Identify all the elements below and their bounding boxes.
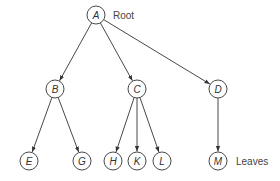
edge-a-c (100, 23, 132, 81)
node-label: C (133, 84, 141, 95)
node-label: M (214, 156, 223, 167)
root-label: Root (113, 10, 134, 21)
node-d: D (209, 80, 227, 98)
node-a: A (87, 6, 105, 24)
node-m: M (209, 152, 227, 170)
edge-b-g (58, 97, 79, 152)
edge-c-h (116, 98, 134, 152)
node-label: A (92, 10, 100, 21)
node-h: H (104, 152, 122, 170)
node-l: L (153, 152, 171, 170)
edge-b-e (32, 97, 52, 152)
edge-a-b (60, 23, 92, 81)
tree-diagram: ABCDEGHKLM RootLeaves (0, 0, 280, 181)
node-label: H (109, 156, 117, 167)
node-label: G (78, 156, 86, 167)
leaves-label: Leaves (236, 156, 268, 167)
nodes-group: ABCDEGHKLM (20, 6, 227, 170)
node-label: E (26, 156, 33, 167)
edge-c-l (140, 98, 159, 153)
node-e: E (20, 152, 38, 170)
node-k: K (128, 152, 146, 170)
node-label: D (214, 84, 221, 95)
node-label: L (159, 156, 165, 167)
node-label: B (52, 84, 59, 95)
node-g: G (73, 152, 91, 170)
node-c: C (128, 80, 146, 98)
node-b: B (46, 80, 64, 98)
edge-a-d (104, 20, 210, 84)
